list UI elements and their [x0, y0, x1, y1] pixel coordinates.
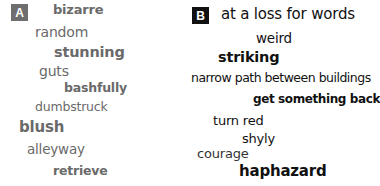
word-haphazard: haphazard [239, 164, 327, 179]
word-dumbstruck: dumbstruck [35, 101, 108, 114]
word-narrow-path-between-buildings: narrow path between buildings [191, 72, 371, 85]
word-bizarre: bizarre [53, 3, 103, 16]
word-stunning: stunning [54, 45, 125, 60]
word-courage: courage [197, 147, 249, 160]
word-striking: striking [218, 50, 279, 65]
panel-a-badge: A [11, 4, 28, 21]
word-alleyway: alleyway [27, 143, 85, 157]
word-at-a-loss-for-words: at a loss for words [221, 7, 355, 22]
panel-b-badge: B [192, 7, 209, 24]
word-weird: weird [256, 32, 292, 46]
word-blush: blush [19, 120, 64, 135]
word-guts: guts [39, 64, 69, 78]
word-bashfully: bashfully [64, 82, 127, 95]
word-retrieve: retrieve [53, 165, 108, 178]
word-turn-red: turn red [213, 114, 264, 127]
word-get-something-back: get something back [253, 93, 380, 105]
word-random: random [35, 25, 88, 39]
word-shyly: shyly [242, 132, 275, 145]
